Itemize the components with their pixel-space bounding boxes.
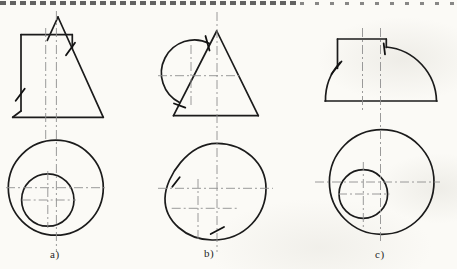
top-view-outline bbox=[165, 143, 266, 240]
cone-base-circle bbox=[8, 140, 103, 235]
figure-a bbox=[6, 11, 108, 252]
transition-tick bbox=[332, 62, 342, 75]
transition-tick bbox=[384, 44, 385, 55]
projection-drawing bbox=[0, 0, 457, 269]
base-left-corner bbox=[13, 111, 21, 117]
figure-b bbox=[158, 12, 273, 252]
figure-c bbox=[315, 28, 440, 243]
figure-label-a: a) bbox=[50, 248, 60, 260]
figure-label-c: c) bbox=[375, 248, 385, 260]
cone-right-slope bbox=[58, 17, 103, 117]
cone-right-slope bbox=[217, 31, 259, 116]
dome-right-arc bbox=[386, 47, 436, 101]
transition-tick bbox=[172, 177, 179, 186]
figure-label-b: b) bbox=[204, 247, 214, 259]
